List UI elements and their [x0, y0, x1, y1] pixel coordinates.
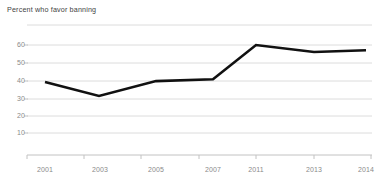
y-axis-label-40: 40 [3, 77, 25, 85]
x-axis-label-2014: 2014 [349, 166, 379, 174]
data-series-line [45, 45, 366, 96]
y-axis-label-30: 30 [3, 95, 25, 103]
y-axis-label-20: 20 [3, 112, 25, 120]
plot-area [0, 0, 379, 184]
x-axis-label-2007: 2007 [196, 166, 230, 174]
x-axis-label-2011: 2011 [239, 166, 273, 174]
x-axis-label-2013: 2013 [297, 166, 331, 174]
y-axis-label-10: 10 [3, 129, 25, 137]
x-axis [27, 155, 372, 159]
x-axis-label-2003: 2003 [83, 166, 117, 174]
y-axis-label-50: 50 [3, 59, 25, 67]
x-axis-label-2001: 2001 [28, 166, 62, 174]
x-axis-label-2005: 2005 [139, 166, 173, 174]
y-axis-label-60: 60 [3, 41, 25, 49]
chart-container: Percent who favor banning [0, 0, 379, 184]
